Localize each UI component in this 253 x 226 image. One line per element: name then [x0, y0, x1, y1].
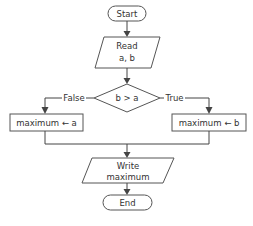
connector-merge: [45, 131, 209, 158]
write-label-line2: maximum: [107, 172, 150, 182]
start-terminal: Start: [108, 6, 146, 21]
decision-node: b > a: [94, 84, 160, 112]
flowchart-canvas: Start Read a, b b > a False True: [0, 0, 253, 226]
write-label-line1: Write: [117, 161, 139, 171]
read-input-node: Read a, b: [95, 37, 160, 68]
assign-max-a-node: maximum ← a: [10, 114, 83, 131]
false-label: False: [63, 93, 84, 103]
assign-max-a-label: maximum ← a: [16, 118, 77, 128]
assign-max-b-label: maximum ← b: [179, 118, 240, 128]
arrow-head-icon: [124, 78, 131, 84]
assign-max-b-node: maximum ← b: [172, 114, 246, 131]
end-terminal: End: [103, 195, 152, 210]
connector-write-end: [124, 183, 131, 195]
arrow-head-icon: [206, 107, 213, 114]
write-output-node: Write maximum: [82, 158, 174, 183]
arrow-head-icon: [124, 189, 131, 195]
read-label-line1: Read: [116, 41, 137, 51]
arrow-head-icon: [42, 107, 49, 114]
arrow-head-icon: [124, 152, 131, 158]
start-label: Start: [117, 9, 138, 19]
connector-start-read: [124, 21, 131, 37]
read-label-line2: a, b: [119, 53, 135, 63]
decision-label: b > a: [115, 93, 138, 103]
connector-true-branch: True: [160, 93, 213, 114]
end-label: End: [119, 198, 135, 208]
arrow-head-icon: [124, 31, 131, 37]
connector-read-decision: [124, 68, 131, 84]
connector-false-branch: False: [42, 93, 95, 114]
true-label: True: [164, 93, 183, 103]
